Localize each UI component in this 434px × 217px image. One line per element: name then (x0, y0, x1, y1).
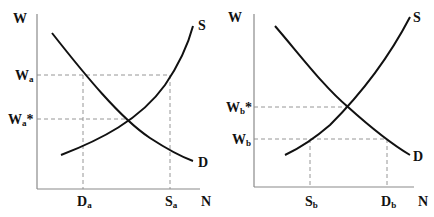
supply-curve-b (285, 17, 410, 155)
quantity-label-da: Da (77, 194, 92, 210)
supply-label-b: S (413, 10, 421, 25)
demand-label-b: D (413, 149, 423, 164)
quantity-label-sa: Sa (165, 194, 178, 210)
wage-label-wa-star: Wa* (8, 112, 34, 128)
labor-market-diagrams: W S D N Wa Wa* Da Sa W S D N Wb* Wb Sb D… (0, 0, 434, 217)
quantity-label-db: Db (381, 194, 396, 210)
demand-label-a: D (198, 155, 208, 170)
y-axis-label-b: W (228, 10, 242, 25)
wage-label-wb-star: Wb* (226, 100, 252, 116)
wage-label-wa: Wa (15, 68, 34, 84)
y-axis-label-a: W (13, 11, 27, 26)
x-axis-label-b: N (418, 194, 428, 209)
panel-a: W S D N Wa Wa* Da Sa (8, 11, 211, 210)
wage-label-wb: Wb (232, 132, 251, 148)
x-axis-label-a: N (201, 194, 211, 209)
demand-curve-b (275, 26, 410, 155)
demand-curve-a (52, 33, 193, 161)
panel-b: W S D N Wb* Wb Sb Db (226, 10, 428, 210)
quantity-label-sb: Sb (305, 194, 318, 210)
supply-label-a: S (198, 18, 206, 33)
supply-curve-a (61, 26, 193, 155)
